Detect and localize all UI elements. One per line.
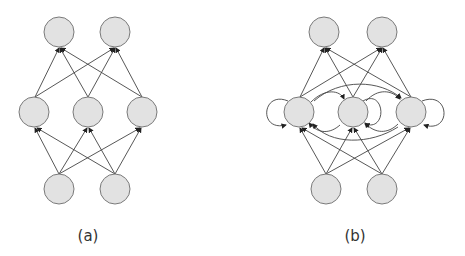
caption-a: (a) [78,227,99,245]
input-node [100,174,130,204]
hidden-node [284,97,314,127]
input-node [311,174,341,204]
caption-b: (b) [344,227,365,245]
diagram-canvas [0,0,465,256]
hidden-node [127,97,157,127]
input-node [367,174,397,204]
output-node [100,17,130,47]
output-node [44,17,74,47]
output-node [367,17,397,47]
hidden-node [396,97,426,127]
hidden-node [338,97,368,127]
network-b-nodes [284,17,426,204]
output-node [309,17,339,47]
hidden-node [73,97,103,127]
input-node [44,174,74,204]
hidden-node [19,97,49,127]
network-a-nodes [19,17,157,204]
